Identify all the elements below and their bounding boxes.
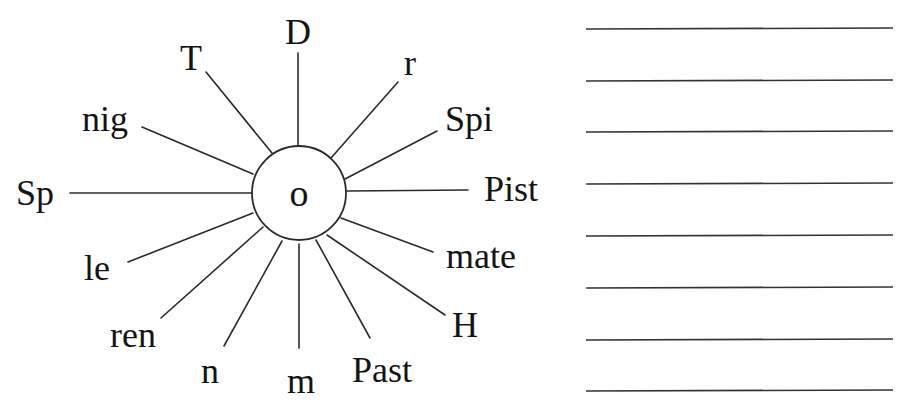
answer-line-1[interactable] (586, 28, 893, 29)
word-wheel-worksheet: o DrSpiPistmateHPastmnrenleSpnigT (0, 0, 908, 416)
spoke-nig (142, 127, 253, 174)
spoke-spi (345, 131, 437, 179)
word-fragment-pist: Pist (484, 169, 538, 209)
word-fragment-d: D (285, 12, 311, 52)
spoke-mate (341, 218, 433, 252)
answer-line-7[interactable] (586, 339, 893, 340)
answer-line-4[interactable] (586, 183, 893, 184)
spoke-t (206, 72, 272, 153)
word-fragment-mate: mate (446, 236, 516, 276)
answer-line-6[interactable] (586, 287, 893, 288)
word-fragment-sp: Sp (16, 173, 54, 213)
answer-line-5[interactable] (586, 235, 893, 236)
word-fragment-past: Past (352, 350, 412, 390)
spoke-past (316, 240, 370, 338)
answer-line-2[interactable] (586, 80, 893, 81)
word-fragment-m: m (287, 361, 315, 401)
answer-line-3[interactable] (586, 131, 893, 132)
word-fragment-n: n (201, 351, 219, 391)
word-fragment-nig: nig (82, 99, 128, 139)
spoke-r (331, 82, 398, 158)
spoke-pist (347, 190, 468, 191)
word-fragment-t: T (180, 38, 202, 78)
spoke-n (224, 241, 282, 346)
hub-letter: o (290, 172, 309, 214)
word-fragment-le: le (84, 248, 110, 288)
word-fragment-r: r (404, 43, 416, 83)
answer-line-8[interactable] (586, 390, 893, 391)
word-fragment-ren: ren (110, 315, 156, 355)
answer-lines-group[interactable] (586, 28, 893, 391)
spoke-le (128, 213, 253, 262)
word-fragment-spi: Spi (445, 99, 493, 139)
spoke-h (327, 235, 445, 315)
word-fragment-h: H (452, 305, 478, 345)
